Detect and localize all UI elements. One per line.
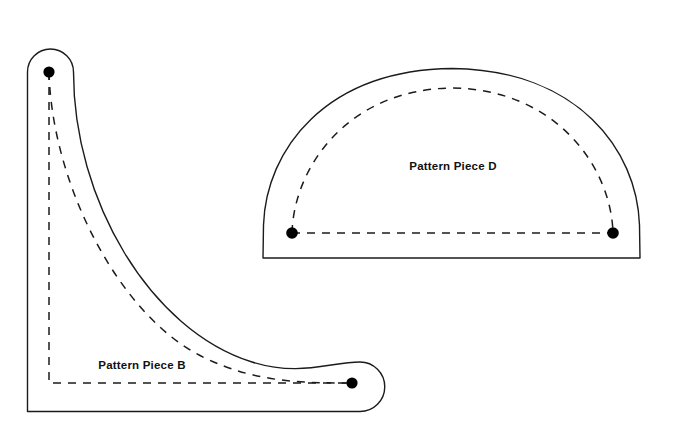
pattern-sheet: Pattern Piece B Pattern Piece D [0,0,676,434]
piece-d-label: Pattern Piece D [409,160,496,172]
piece-b-notch-dot-right [346,377,357,388]
piece-b-label: Pattern Piece B [98,359,185,371]
piece-d-notch-dot-right [607,227,619,239]
pattern-sheet-canvas: Pattern Piece B Pattern Piece D [0,0,676,434]
piece-b-notch-dot-top [43,66,54,77]
piece-d-notch-dot-left [286,227,298,239]
